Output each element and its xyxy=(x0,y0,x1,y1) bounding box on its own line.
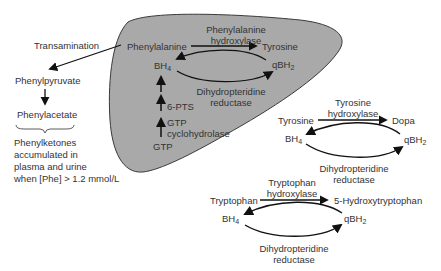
note-line: plasma and urine xyxy=(14,161,119,173)
tyrosine-label: Tyrosine xyxy=(262,41,298,52)
trp-regeneration-arc-bottom xyxy=(245,225,341,236)
bh4-sub: 4 xyxy=(298,138,302,145)
phenylalanine-label: Phenylalanine xyxy=(127,41,187,52)
reductase-line1: Dihydropteridine xyxy=(254,243,334,254)
tyr-hydroxylase-label: Tyrosine hydroxylase xyxy=(318,97,388,119)
trp-bh4-label: BH4 xyxy=(222,213,239,227)
gtp-label: GTP xyxy=(153,141,173,152)
qbh2-text: qBH xyxy=(404,134,422,145)
bh4-sub: 4 xyxy=(235,218,239,225)
bh4-text: BH xyxy=(154,60,167,71)
phenylpyruvate-label: Phenylpyruvate xyxy=(15,75,80,86)
liver-bh4-label: BH4 xyxy=(154,60,171,74)
qbh2-sub: 2 xyxy=(362,218,366,225)
liver-qbh2-label: qBH2 xyxy=(272,59,294,73)
bh4-sub: 4 xyxy=(167,65,171,72)
gtp-cyclo-line2: cyclohydrolase xyxy=(167,128,230,139)
enzyme-line1: Tyrosine xyxy=(318,97,388,108)
hydroxytryptophan-label: 5-Hydroxytryptophan xyxy=(334,195,422,206)
reductase-line1: Dihydropteridine xyxy=(191,86,271,97)
enzyme-line1: Tryptophan xyxy=(257,177,327,188)
gtp-cyclo-line1: GTP xyxy=(167,117,230,128)
tyr-qbh2-label: qBH2 xyxy=(404,134,426,148)
pts-label: 6-PTS xyxy=(167,101,194,112)
qbh2-sub: 2 xyxy=(290,64,294,71)
dopa-label: Dopa xyxy=(392,115,415,126)
trp-hydroxylase-label: Tryptophan hydroxylase xyxy=(257,177,327,199)
tyr-substrate-label: Tyrosine xyxy=(278,115,314,126)
bh4-text: BH xyxy=(222,213,235,224)
note-line: Phenylketones xyxy=(14,137,119,149)
trp-reductase-label: Dihydropteridine reductase xyxy=(254,243,334,265)
enzyme-line2: hydroxylase xyxy=(318,108,388,119)
liver-reductase-label: Dihydropteridine reductase xyxy=(191,86,271,108)
qbh2-text: qBH xyxy=(272,59,290,70)
trp-regeneration-arc-top xyxy=(245,202,342,214)
brace xyxy=(16,125,74,133)
enzyme-line2: hydroxylase xyxy=(257,188,327,199)
reductase-line1: Dihydropteridine xyxy=(314,163,394,174)
qbh2-sub: 2 xyxy=(422,139,426,146)
note-line: accumulated in xyxy=(14,149,119,161)
reductase-line2: reductase xyxy=(191,97,271,108)
bh4-text: BH xyxy=(285,133,298,144)
qbh2-text: qBH xyxy=(344,213,362,224)
gtp-cyclohydrolase-label: GTP cyclohydrolase xyxy=(167,117,230,139)
phenylacetate-label: Phenylacetate xyxy=(17,109,77,120)
note-line: when [Phe] > 1.2 mmol/L xyxy=(14,173,119,185)
reductase-line2: reductase xyxy=(254,254,334,265)
phenylketones-note: Phenylketones accumulated in plasma and … xyxy=(14,137,119,185)
tyr-regeneration-arc-top xyxy=(307,123,400,134)
enzyme-line1: Phenylalanine xyxy=(200,24,272,35)
transamination-label: Transamination xyxy=(34,40,99,51)
trp-substrate-label: Tryptophan xyxy=(210,195,258,206)
tyr-regeneration-arc-bottom xyxy=(306,144,402,157)
trp-qbh2-label: qBH2 xyxy=(344,213,366,227)
tyr-bh4-label: BH4 xyxy=(285,133,302,147)
